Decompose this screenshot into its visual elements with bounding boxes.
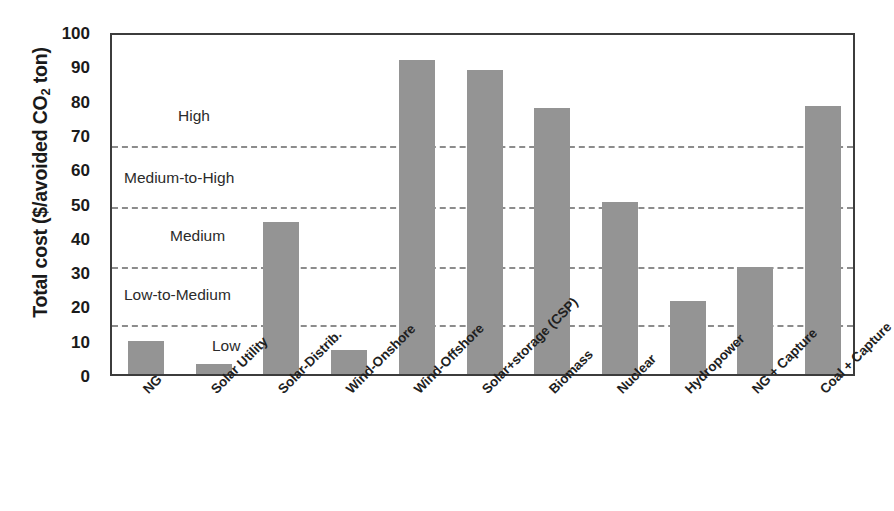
- bar: [737, 267, 773, 374]
- zone-label: Low: [212, 337, 240, 355]
- plot-area: HighMedium-to-HighMediumLow-to-MediumLow: [110, 33, 855, 376]
- bar: [128, 341, 164, 374]
- y-axis-tick-label: 100: [44, 25, 90, 42]
- x-axis-category-label: NG: [140, 372, 165, 397]
- zone-label: Low-to-Medium: [124, 286, 231, 304]
- y-axis-tick-label: 70: [44, 128, 90, 145]
- y-axis-tick-label: 10: [44, 334, 90, 351]
- y-axis-tick-label: 80: [44, 94, 90, 111]
- y-axis-tick-label: 60: [44, 162, 90, 179]
- bar: [602, 202, 638, 374]
- zone-label: Medium: [170, 227, 225, 245]
- y-axis-tick-label: 90: [44, 59, 90, 76]
- x-axis-category-labels: NGSolar UtilitySolar-Distrib.Wind-Onshor…: [110, 376, 855, 511]
- zone-label: High: [178, 107, 210, 125]
- bar: [670, 301, 706, 374]
- y-axis-tick-label: 40: [44, 231, 90, 248]
- y-axis-tick-label: 0: [44, 368, 90, 385]
- zone-label: Medium-to-High: [124, 169, 234, 187]
- y-axis-tick-labels: 1009080706050403020100: [40, 0, 90, 511]
- y-axis-tick-label: 30: [44, 265, 90, 282]
- y-axis-tick-label: 50: [44, 197, 90, 214]
- bar: [263, 222, 299, 374]
- y-axis-tick-label: 20: [44, 299, 90, 316]
